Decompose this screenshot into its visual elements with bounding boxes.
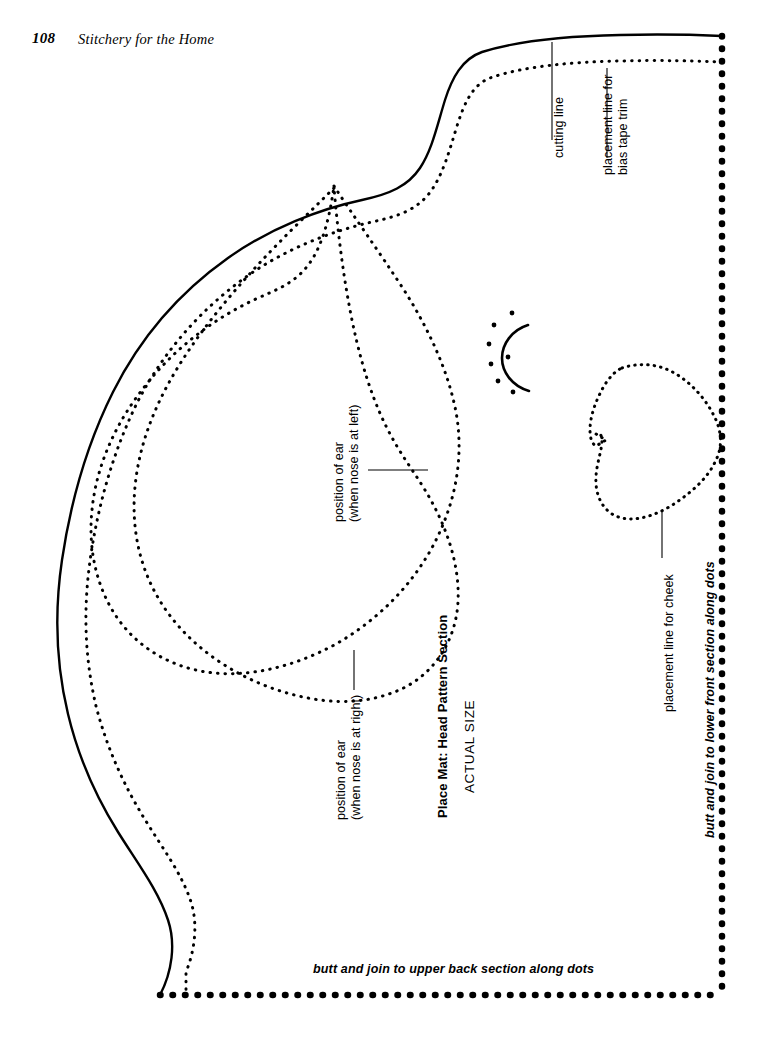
eyelash-dot — [487, 342, 492, 347]
cheek-placement-path — [590, 365, 721, 519]
label-ear-position-nose-left: position of ear (when nose is at left) — [332, 404, 361, 522]
eyelash-dot — [489, 362, 494, 367]
page-canvas: 108 Stitchery for the Home — [0, 0, 770, 1037]
label-join-upper-back: butt and join to upper back section alon… — [313, 962, 594, 976]
label-ear-position-nose-right: position of ear (when nose is at right) — [334, 695, 363, 820]
cutting-line-path — [57, 35, 722, 995]
ear-position-nose-right-path — [134, 188, 458, 701]
label-bias-tape-line1: placement line for — [601, 75, 616, 175]
label-bias-tape-line2: bias tape trim — [616, 75, 631, 175]
bias-tape-placement-path — [86, 61, 722, 993]
label-cutting-line: cutting line — [552, 97, 566, 158]
figure-title: Place Mat: Head Pattern Section — [436, 615, 450, 818]
pattern-drawing — [0, 0, 770, 1037]
label-ear-left-line1: position of ear — [332, 404, 347, 522]
label-ear-left-line2: (when nose is at left) — [347, 404, 362, 522]
label-ear-right-line2: (when nose is at right) — [349, 695, 364, 820]
eyelash-dot — [492, 323, 497, 328]
label-join-lower-front: butt and join to lower front section alo… — [703, 561, 717, 838]
label-cheek-placement: placement line for cheek — [662, 574, 676, 712]
eyelash-dot — [510, 311, 515, 316]
label-ear-right-line1: position of ear — [334, 695, 349, 820]
eyelash-dot — [496, 379, 501, 384]
eyelash-dot — [506, 355, 511, 360]
label-bias-tape-placement: placement line for bias tape trim — [601, 75, 630, 175]
eyelash-dot — [511, 390, 516, 395]
figure-subtitle: ACTUAL SIZE — [463, 700, 477, 793]
